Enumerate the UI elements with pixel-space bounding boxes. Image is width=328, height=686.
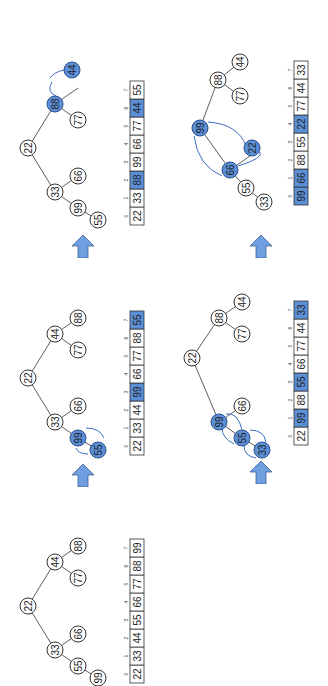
tree-node: 55: [238, 180, 254, 196]
tree-node-highlighted: 44: [64, 62, 80, 78]
svg-text:99: 99: [195, 122, 206, 134]
tree-node: 44: [47, 554, 63, 570]
svg-text:33: 33: [50, 416, 61, 428]
svg-text:88: 88: [214, 312, 225, 324]
svg-text:1: 1: [123, 654, 129, 657]
svg-text:77: 77: [73, 572, 84, 584]
tree-node-highlighted: 99: [211, 414, 227, 430]
svg-text:44: 44: [50, 328, 61, 340]
svg-text:88: 88: [296, 394, 307, 406]
svg-text:6: 6: [123, 336, 129, 339]
svg-text:33: 33: [132, 192, 143, 204]
svg-text:33: 33: [296, 64, 307, 76]
svg-text:66: 66: [73, 400, 84, 412]
svg-text:2: 2: [123, 178, 129, 181]
tree-node: 77: [70, 570, 86, 586]
svg-text:6: 6: [287, 86, 293, 89]
svg-text:44: 44: [67, 64, 78, 76]
svg-text:5: 5: [287, 104, 293, 107]
tree-node: 77: [232, 88, 248, 104]
svg-text:5: 5: [123, 354, 129, 357]
step-2-tree: 22 33 44 99 66 77 88 55 0 1 2 3 4 5 6 7: [0, 232, 164, 458]
tree-nodes: 22 99 88 55 66 77 44 33: [184, 294, 270, 458]
svg-text:66: 66: [73, 628, 84, 640]
svg-text:4: 4: [287, 122, 293, 125]
tree-nodes: 99 66 88 55 22 77 44 33: [192, 54, 272, 210]
tree-node: 44: [232, 54, 248, 70]
tree-node-highlighted: 88: [47, 96, 63, 112]
svg-text:22: 22: [247, 142, 258, 154]
svg-text:1: 1: [287, 416, 293, 419]
svg-text:77: 77: [235, 90, 246, 102]
svg-text:33: 33: [259, 196, 270, 208]
svg-text:0: 0: [287, 194, 293, 197]
svg-text:66: 66: [132, 596, 143, 608]
svg-text:55: 55: [132, 614, 143, 626]
tree-node: 33: [47, 642, 63, 658]
svg-text:33: 33: [132, 650, 143, 662]
step-5-panel: 99 66 88 55 22 77 44 33 0 1 2 3 4 5 6 7: [164, 2, 328, 228]
svg-text:66: 66: [132, 138, 143, 150]
svg-text:44: 44: [50, 556, 61, 568]
svg-text:77: 77: [237, 328, 248, 340]
svg-text:22: 22: [296, 118, 307, 130]
svg-text:99: 99: [296, 412, 307, 424]
svg-text:88: 88: [132, 332, 143, 344]
svg-text:22: 22: [296, 430, 307, 442]
step-3-tree: 22 33 88 99 66 77 44 55 0 1 2 3 4 5 6 7: [0, 2, 164, 228]
svg-text:77: 77: [132, 120, 143, 132]
tree-edges: [200, 62, 264, 202]
step-1-panel: 22 33 44 55 66 77 88 99 0 1 2 3 4 5 6 7: [0, 460, 164, 686]
tree-edges: [28, 88, 98, 220]
tree-node: 77: [70, 342, 86, 358]
tree-node: 88: [211, 310, 227, 326]
step-4-panel: 22 99 88 55 66 77 44 33 0 1 2 3 4 5 6 7: [164, 232, 328, 458]
svg-text:3: 3: [287, 140, 293, 143]
tree-node: 77: [70, 112, 86, 128]
svg-text:22: 22: [23, 372, 34, 384]
svg-text:22: 22: [132, 210, 143, 222]
svg-text:5: 5: [123, 124, 129, 127]
svg-text:3: 3: [123, 618, 129, 621]
svg-text:1: 1: [123, 196, 129, 199]
tree-node: 55: [90, 212, 106, 228]
array-indices: 0 1 2 3 4 5 6 7: [123, 318, 129, 447]
svg-text:88: 88: [73, 312, 84, 324]
svg-text:77: 77: [132, 578, 143, 590]
svg-text:88: 88: [296, 154, 307, 166]
svg-text:77: 77: [296, 100, 307, 112]
svg-text:44: 44: [296, 322, 307, 334]
svg-text:6: 6: [123, 106, 129, 109]
svg-text:99: 99: [73, 432, 84, 444]
tree-node: 77: [234, 326, 250, 342]
svg-text:4: 4: [123, 372, 129, 375]
svg-text:77: 77: [296, 340, 307, 352]
tree-node: 66: [70, 398, 86, 414]
svg-text:33: 33: [296, 304, 307, 316]
svg-text:1: 1: [287, 176, 293, 179]
next-step-arrow-icon: [250, 234, 272, 258]
tree-node: 66: [234, 398, 250, 414]
svg-text:66: 66: [73, 170, 84, 182]
svg-text:4: 4: [123, 600, 129, 603]
tree-node-highlighted: 22: [244, 140, 260, 156]
svg-text:22: 22: [23, 600, 34, 612]
tree-nodes: 22 33 44 99 66 77 88 55: [20, 310, 106, 458]
svg-text:44: 44: [132, 102, 143, 114]
swap-arrow-icon: [222, 428, 234, 444]
svg-text:99: 99: [296, 190, 307, 202]
svg-text:7: 7: [123, 318, 129, 321]
next-step-arrow-icon: [72, 463, 94, 487]
next-step-arrow-icon: [250, 460, 272, 484]
svg-text:4: 4: [123, 142, 129, 145]
svg-text:55: 55: [73, 660, 84, 672]
swap-arrow-icon: [50, 82, 56, 96]
svg-text:3: 3: [123, 390, 129, 393]
tree-nodes: 22 33 88 99 66 77 44 55: [20, 62, 106, 228]
svg-text:55: 55: [93, 444, 104, 456]
tree-node: 44: [47, 326, 63, 342]
tree-node: 99: [90, 670, 106, 686]
swap-arrow-icon: [76, 448, 88, 454]
svg-text:99: 99: [132, 542, 143, 554]
tree-node-highlighted: 55: [234, 430, 250, 446]
